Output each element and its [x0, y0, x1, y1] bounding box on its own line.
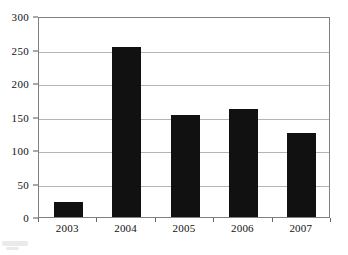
- x-tick-label: 2006: [231, 222, 254, 235]
- x-tick-mark: [213, 218, 214, 222]
- bar-2004: [112, 47, 141, 217]
- y-tick-label: 250: [12, 45, 29, 56]
- y-axis: 050100150200250300: [0, 0, 38, 255]
- x-tick-mark: [272, 218, 273, 222]
- x-tick-mark: [155, 218, 156, 222]
- y-tick-label: 0: [23, 213, 29, 224]
- bars-group: [39, 18, 329, 217]
- x-tick-label: 2007: [289, 222, 312, 235]
- bar-2007: [287, 133, 316, 217]
- x-tick-mark: [96, 218, 97, 222]
- y-tick-label: 100: [12, 146, 29, 157]
- x-axis: 20032004200520062007: [38, 222, 330, 244]
- x-tick-label: 2004: [114, 222, 137, 235]
- y-tick-label: 200: [12, 79, 29, 90]
- scan-artifact: [6, 247, 19, 250]
- bar-2003: [54, 202, 83, 217]
- plot-area: [38, 17, 330, 218]
- x-tick-mark: [330, 218, 331, 222]
- y-tick-label: 50: [17, 179, 29, 190]
- scan-artifact: [2, 241, 28, 246]
- x-tick-mark: [38, 218, 39, 222]
- y-tick-label: 300: [12, 12, 29, 23]
- bar-chart-figure: 050100150200250300 20032004200520062007: [0, 0, 348, 255]
- x-tick-label: 2005: [173, 222, 196, 235]
- bar-2006: [229, 109, 258, 217]
- bar-2005: [171, 115, 200, 218]
- y-tick-label: 150: [12, 112, 29, 123]
- x-tick-label: 2003: [56, 222, 79, 235]
